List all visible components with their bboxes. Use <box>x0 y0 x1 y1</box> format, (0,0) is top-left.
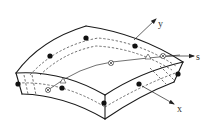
integration-point-2 <box>108 60 113 65</box>
edge-top-front-right <box>105 62 183 95</box>
arrow-y-icon <box>134 19 156 40</box>
top-surface <box>16 26 183 95</box>
node-1 <box>83 35 88 40</box>
edge-bottom-front-right <box>105 82 174 119</box>
axis-y: y <box>134 18 163 40</box>
triangle-marker-2 <box>145 54 151 59</box>
node-3 <box>132 43 137 48</box>
reference-curve <box>48 55 180 90</box>
mid-surface-lines <box>18 38 178 107</box>
axis-label-y: y <box>158 18 163 29</box>
side-faces <box>16 62 183 119</box>
reference-points <box>60 54 151 83</box>
axis-label-s: s <box>196 51 200 62</box>
axis-x: x <box>142 86 182 114</box>
shell-element-diagram: y s x <box>0 0 213 132</box>
integration-point-3 <box>160 53 165 58</box>
axis-label-x: x <box>177 103 182 114</box>
node-6 <box>101 100 106 105</box>
edge-bottom-front-left <box>22 94 105 119</box>
axis-s: s <box>166 51 200 62</box>
node-5 <box>59 85 64 90</box>
node-7 <box>136 81 141 86</box>
integration-point-1 <box>45 87 50 92</box>
node-2 <box>47 53 52 58</box>
node-8 <box>175 71 180 76</box>
edge-top-front-left <box>16 73 105 95</box>
node-4 <box>15 81 20 86</box>
